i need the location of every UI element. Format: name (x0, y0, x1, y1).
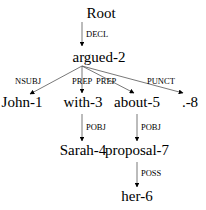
dependency-tree: DECLNSUBJPREPPREPPUNCTPOBJPOBJPOSS Roota… (0, 0, 206, 210)
edge-label-pobj: POBJ (86, 122, 107, 132)
edge-label-prep: PREP (96, 76, 117, 86)
edge-label-poss: POSS (141, 168, 162, 178)
edge-label-punct: PUNCT (147, 76, 176, 86)
node-root: Root (86, 5, 116, 21)
node-her-6: her-6 (121, 188, 153, 204)
node-with-3: with-3 (63, 94, 102, 110)
edge-label-nsubj: NSUBJ (15, 76, 42, 86)
edge-label-pobj: POBJ (141, 122, 162, 132)
node-punct-8: .-8 (182, 94, 198, 110)
node-about-5: about-5 (114, 94, 160, 110)
node-sarah-4: Sarah-4 (60, 142, 107, 158)
node-argued-2: argued-2 (72, 49, 125, 65)
node-john-1: John-1 (2, 94, 43, 110)
edge-label-decl: DECL (86, 29, 108, 39)
edge-label-prep: PREP (72, 76, 93, 86)
node-proposal-7: proposal-7 (105, 142, 170, 158)
